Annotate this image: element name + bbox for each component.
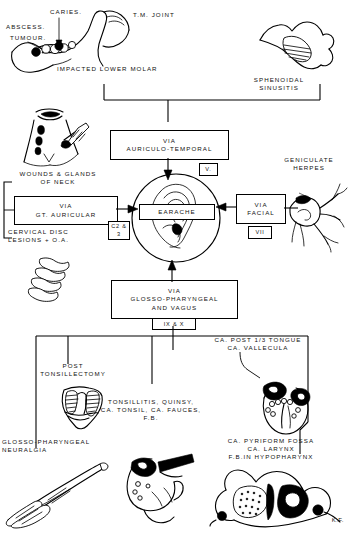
mandible-illustration bbox=[8, 8, 158, 80]
nerve-label-c2-3: C2 & 3 bbox=[108, 221, 130, 240]
sphenoid-sinus-illustration bbox=[254, 16, 342, 76]
label-glossopharyngeal-neuralgia: GLOSSO-PHARYNGEAL NEURALGIA bbox=[2, 438, 112, 454]
larynx-lesion-illustration bbox=[254, 376, 316, 438]
nerve-forceps-illustration bbox=[4, 460, 110, 528]
pathway-box-auriculo-temporal[interactable]: VIA AURICULO-TEMPORAL bbox=[110, 130, 229, 160]
signature: K.F. bbox=[300, 516, 344, 524]
connector-facial-to-geniculate bbox=[284, 202, 300, 214]
label-tonsillitis-group: TONSILLITIS, QUINSY, CA. TONSIL, CA. FAU… bbox=[83, 398, 219, 422]
label-pyriform-group: CA. PYRIFORM FOSSA CA. LARYNX F.B.IN HYP… bbox=[196, 437, 346, 461]
diagram-canvas: CARIES. ABSCESS. TUMOUR. T.M. JOINT IMPA… bbox=[0, 0, 350, 533]
pathway-box-facial[interactable]: VIA FACIAL bbox=[236, 194, 286, 224]
geniculate-nerve-illustration bbox=[286, 182, 348, 252]
label-geniculate-herpes: GENICULATE HERPES bbox=[272, 156, 346, 172]
label-tongue-vallecula: CA. POST 1/3 TONGUE CA. VALLECULA bbox=[188, 336, 328, 352]
larynx-forceps-illustration bbox=[118, 452, 198, 526]
pathway-box-glossopharyngeal-vagus[interactable]: VIA GLOSSO-PHARYNGEAL AND VAGUS bbox=[111, 280, 238, 319]
left-bracket-connector bbox=[0, 180, 40, 242]
cervical-vertebrae-illustration bbox=[22, 256, 78, 304]
nerve-label-vii: VII bbox=[248, 226, 272, 239]
earache-center-label: EARACHE bbox=[139, 204, 215, 220]
neck-wound-illustration bbox=[16, 110, 98, 172]
label-post-tonsillectomy: POST TONSILLECTOMY bbox=[28, 362, 118, 378]
